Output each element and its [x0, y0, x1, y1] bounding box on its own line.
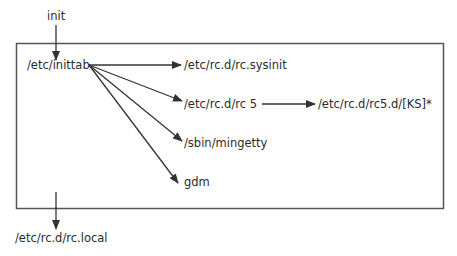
- node-inittab: /etc/inittab: [27, 58, 90, 72]
- node-rc5d: /etc/rc.d/rc5.d/[KS]*: [318, 97, 432, 111]
- node-rclocal: /etc/rc.d/rc.local: [15, 231, 108, 245]
- node-init: init: [47, 9, 65, 23]
- node-mingetty: /sbin/mingetty: [184, 136, 267, 150]
- diagram-canvas: [0, 0, 457, 256]
- node-sysinit: /etc/rc.d/rc.sysinit: [184, 58, 287, 72]
- node-rc5: /etc/rc.d/rc 5: [184, 97, 257, 111]
- arrow-inittab-to-mingetty: [89, 65, 182, 141]
- node-gdm: gdm: [184, 175, 210, 189]
